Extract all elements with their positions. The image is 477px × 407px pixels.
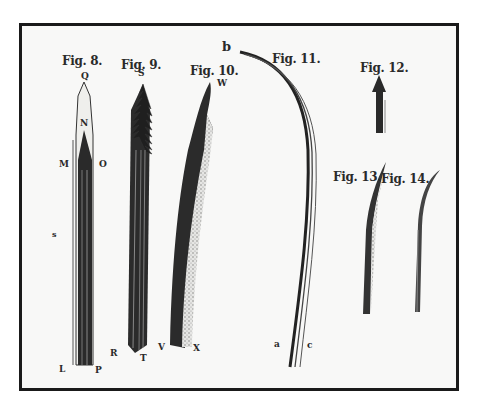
fig10-title: Fig. 10. (190, 65, 238, 77)
fig8-point-l: L (59, 365, 65, 374)
fig8-point-p: P (95, 366, 102, 375)
fig9-point-s: S (138, 69, 145, 78)
fig10-point-w: W (217, 79, 227, 88)
fig8-point-n: N (80, 119, 88, 128)
fig9-point-r: R (110, 349, 117, 358)
fig8-title: Fig. 8. (62, 55, 102, 67)
fig11-title: Fig. 11. (272, 53, 320, 65)
fig9-barbed-spine (128, 84, 152, 353)
fig13-title: Fig. 13. (333, 171, 381, 183)
fig12-title: Fig. 12. (360, 62, 408, 74)
fig11-point-b: b (222, 40, 231, 53)
fig8-point-o: O (99, 160, 107, 169)
fig11-curved-hook (240, 52, 316, 367)
fig8-point-q: Q (81, 72, 89, 81)
fig12-arrow-spine (372, 75, 386, 133)
fig14-spine (415, 170, 440, 312)
fig10-curved-spine (170, 82, 213, 348)
fig14-title: Fig. 14. (381, 173, 429, 185)
fig9-point-t: T (140, 354, 147, 363)
fig8-point-m: M (59, 160, 69, 169)
fig10-point-x: X (193, 344, 200, 353)
stray-mark: s (52, 230, 57, 238)
fig11-point-c: c (307, 341, 312, 350)
fig10-point-v: V (158, 343, 165, 352)
fig11-point-a: a (274, 340, 280, 349)
